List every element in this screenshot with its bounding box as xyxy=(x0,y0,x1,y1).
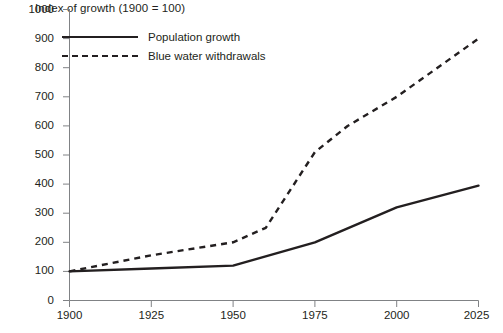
legend-label: Population growth xyxy=(148,31,240,43)
legend-item-population-growth: Population growth xyxy=(62,27,266,46)
x-tick-label: 1950 xyxy=(203,310,263,322)
y-tick-label: 700 xyxy=(10,91,54,103)
x-axis-ticks xyxy=(70,301,479,308)
chart-container: Index of growth (1900 = 100) xyxy=(0,0,503,333)
y-tick-label: 800 xyxy=(10,62,54,74)
chart-legend: Population growth Blue water withdrawals xyxy=(62,27,266,65)
legend-dashed-line-swatch xyxy=(62,49,138,63)
series-line-population-growth xyxy=(70,186,479,272)
x-tick-label: 2000 xyxy=(367,310,427,322)
series-line-blue-water-withdrawals xyxy=(70,39,479,272)
x-tick-label: 1925 xyxy=(121,310,181,322)
y-tick-label: 600 xyxy=(10,120,54,132)
y-tick-label: 200 xyxy=(10,236,54,248)
legend-item-blue-water-withdrawals: Blue water withdrawals xyxy=(62,46,266,65)
legend-solid-line-swatch xyxy=(62,30,138,44)
legend-label: Blue water withdrawals xyxy=(148,50,266,62)
y-tick-label: 1000 xyxy=(10,4,54,16)
x-tick-label: 1900 xyxy=(40,310,100,322)
y-tick-label: 400 xyxy=(10,178,54,190)
y-tick-label: 900 xyxy=(10,33,54,45)
y-tick-label: 500 xyxy=(10,149,54,161)
y-tick-label: 300 xyxy=(10,207,54,219)
y-tick-label: 0 xyxy=(10,295,54,307)
x-tick-label: 1975 xyxy=(285,310,345,322)
x-tick-label: 2025 xyxy=(447,310,503,322)
y-tick-label: 100 xyxy=(10,265,54,277)
